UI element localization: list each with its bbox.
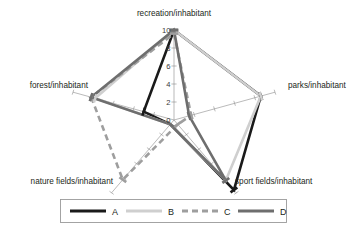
tick-label-10: 10 xyxy=(162,26,170,35)
tick-label-0: 0 xyxy=(166,116,170,125)
axis-label-sport-fields: sport fields/inhabitant xyxy=(235,177,313,186)
axis-label-recreation: recreation/inhabitant xyxy=(137,9,212,18)
legend-label-d: D xyxy=(280,207,287,217)
axis-tickmark xyxy=(159,133,163,136)
legend: ABCD xyxy=(70,207,287,217)
tick-label-8: 8 xyxy=(166,44,170,53)
axis-spoke xyxy=(112,120,174,193)
axis-tickmark xyxy=(109,191,113,194)
tick-label-2: 2 xyxy=(166,98,170,107)
legend-label-c: C xyxy=(224,207,231,217)
legend-label-b: B xyxy=(168,207,174,217)
axis-tickmark xyxy=(184,133,188,136)
legend-label-a: A xyxy=(112,207,118,217)
tick-label-4: 4 xyxy=(166,80,170,89)
axis-tickmark xyxy=(234,191,238,194)
series-layer xyxy=(91,30,261,190)
axis-spokes xyxy=(73,30,275,193)
axis-label-nature-fields: nature fields/inhabitant xyxy=(31,177,114,186)
radar-chart: 10 8 6 4 2 0 recreation/inhabitant parks… xyxy=(0,0,348,233)
axis-spoke xyxy=(73,92,174,120)
tick-label-6: 6 xyxy=(166,62,170,71)
axis-tickmark xyxy=(147,148,151,151)
axis-label-forest: forest/inhabitant xyxy=(30,81,89,90)
radar-chart-canvas: 10 8 6 4 2 0 recreation/inhabitant parks… xyxy=(0,0,348,233)
axis-label-parks: parks/inhabitant xyxy=(288,81,347,90)
series-endcaps xyxy=(90,30,262,192)
series-path-a xyxy=(144,30,261,190)
